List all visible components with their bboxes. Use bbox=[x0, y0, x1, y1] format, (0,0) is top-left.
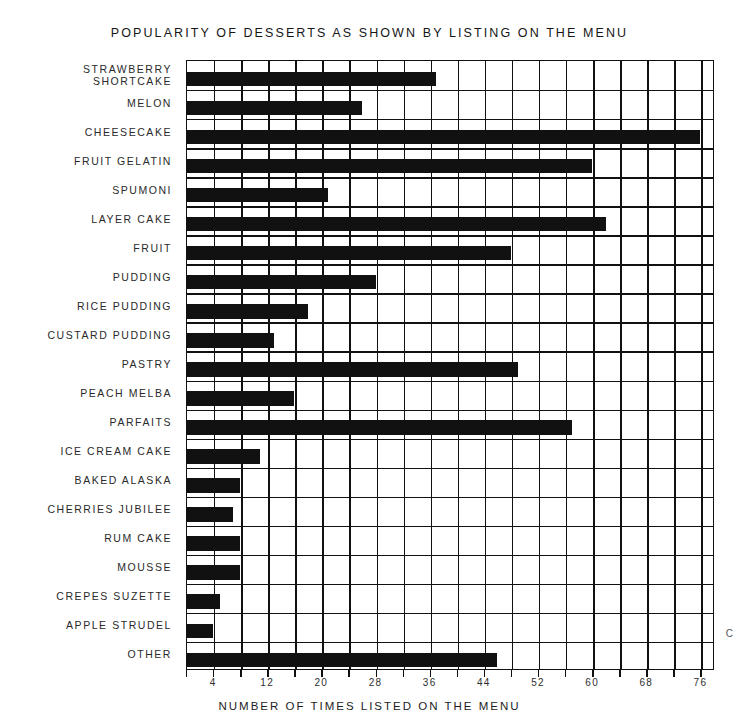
category-label: PARFAITS bbox=[110, 416, 172, 428]
bar bbox=[186, 246, 511, 261]
category-label: APPLE STRUDEL bbox=[66, 619, 172, 631]
bar-row bbox=[186, 72, 714, 87]
axis-tick-label: 20 bbox=[315, 677, 329, 688]
axis-tick-label: 68 bbox=[639, 677, 653, 688]
axis-tick-label: 44 bbox=[477, 677, 491, 688]
axis-tick bbox=[565, 670, 566, 677]
category-label: CHERRIES JUBILEE bbox=[47, 503, 172, 515]
axis-tick-label: 60 bbox=[585, 677, 599, 688]
category-label: FRUIT GELATIN bbox=[74, 155, 172, 167]
category-label: STRAWBERRYSHORTCAKE bbox=[83, 63, 172, 87]
axis-tick bbox=[403, 670, 404, 677]
category-labels: STRAWBERRYSHORTCAKEMELONCHEESECAKEFRUIT … bbox=[0, 60, 180, 670]
bar bbox=[186, 391, 294, 406]
bar bbox=[186, 304, 308, 319]
axis-tick bbox=[646, 670, 647, 677]
bar-row bbox=[186, 101, 714, 116]
bar bbox=[186, 653, 497, 668]
bar bbox=[186, 507, 233, 522]
bar bbox=[186, 217, 606, 232]
bar bbox=[186, 478, 240, 493]
axis-tick-label: 52 bbox=[531, 677, 545, 688]
bar-row bbox=[186, 478, 714, 493]
bar-row bbox=[186, 188, 714, 203]
axis-tick bbox=[267, 670, 268, 677]
chart-container: POPULARITY OF DESSERTS AS SHOWN BY LISTI… bbox=[0, 0, 739, 724]
chart-title: POPULARITY OF DESSERTS AS SHOWN BY LISTI… bbox=[0, 26, 739, 40]
bar-row bbox=[186, 217, 714, 232]
bar-row bbox=[186, 246, 714, 261]
bar-row bbox=[186, 130, 714, 145]
category-label: PEACH MELBA bbox=[80, 387, 172, 399]
category-label: PASTRY bbox=[122, 358, 172, 370]
axis-tick bbox=[457, 670, 458, 677]
axis-tick bbox=[673, 670, 674, 677]
x-axis: 4122028364452606876 bbox=[186, 670, 714, 680]
category-label: BAKED ALASKA bbox=[75, 474, 172, 486]
bar bbox=[186, 159, 592, 174]
axis-tick bbox=[240, 670, 241, 677]
bar bbox=[186, 594, 220, 609]
category-label: CHEESECAKE bbox=[85, 126, 172, 138]
corner-annotation: C bbox=[726, 628, 733, 639]
axis-tick bbox=[376, 670, 377, 677]
category-label: CREPES SUZETTE bbox=[56, 590, 172, 602]
axis-tick bbox=[484, 670, 485, 677]
axis-tick bbox=[430, 670, 431, 677]
category-label: OTHER bbox=[128, 648, 173, 660]
bar-row bbox=[186, 420, 714, 435]
axis-tick bbox=[213, 670, 214, 677]
bar-row bbox=[186, 594, 714, 609]
axis-tick-label: 12 bbox=[260, 677, 274, 688]
axis-tick bbox=[511, 670, 512, 677]
bar bbox=[186, 275, 376, 290]
axis-tick-label: 28 bbox=[369, 677, 383, 688]
bar bbox=[186, 72, 436, 87]
axis-tick bbox=[321, 670, 322, 677]
bar-row bbox=[186, 507, 714, 522]
bar-row bbox=[186, 275, 714, 290]
axis-tick bbox=[592, 670, 593, 677]
category-label: PUDDING bbox=[113, 271, 172, 283]
category-label: RUM CAKE bbox=[104, 532, 172, 544]
bar-row bbox=[186, 362, 714, 377]
bar-row bbox=[186, 391, 714, 406]
bar-row bbox=[186, 449, 714, 464]
category-label: FRUIT bbox=[133, 242, 172, 254]
category-label: LAYER CAKE bbox=[91, 213, 172, 225]
bar bbox=[186, 333, 274, 348]
bar bbox=[186, 449, 260, 464]
category-label: MOUSSE bbox=[117, 561, 172, 573]
axis-tick-label: 4 bbox=[210, 677, 217, 688]
axis-tick-label: 36 bbox=[423, 677, 437, 688]
bar-row bbox=[186, 565, 714, 580]
category-label: SPUMONI bbox=[112, 184, 172, 196]
bar-row bbox=[186, 304, 714, 319]
bar-row bbox=[186, 536, 714, 551]
axis-tick bbox=[700, 670, 701, 677]
axis-tick bbox=[186, 670, 187, 677]
bar bbox=[186, 565, 240, 580]
bar bbox=[186, 624, 213, 639]
bar bbox=[186, 188, 328, 203]
axis-tick bbox=[538, 670, 539, 677]
bar bbox=[186, 130, 700, 145]
bar bbox=[186, 362, 518, 377]
bar-row bbox=[186, 333, 714, 348]
axis-tick bbox=[294, 670, 295, 677]
axis-tick-label: 76 bbox=[694, 677, 708, 688]
axis-tick bbox=[348, 670, 349, 677]
category-label: RICE PUDDING bbox=[77, 300, 172, 312]
bar-row bbox=[186, 653, 714, 668]
bar bbox=[186, 536, 240, 551]
x-axis-title: NUMBER OF TIMES LISTED ON THE MENU bbox=[0, 700, 739, 712]
axis-tick bbox=[619, 670, 620, 677]
bar bbox=[186, 420, 572, 435]
category-label: CUSTARD PUDDING bbox=[47, 329, 172, 341]
bar-row bbox=[186, 624, 714, 639]
category-label: ICE CREAM CAKE bbox=[60, 445, 172, 457]
bar-row bbox=[186, 159, 714, 174]
category-label: MELON bbox=[127, 97, 172, 109]
bars-layer bbox=[186, 60, 714, 670]
bar bbox=[186, 101, 362, 116]
